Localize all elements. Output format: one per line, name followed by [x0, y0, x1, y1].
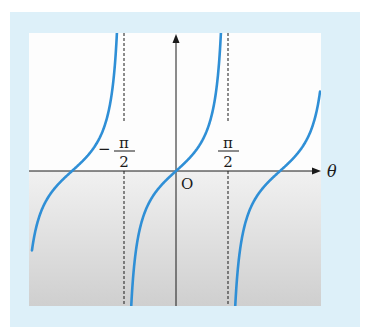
- tick-label-neg-sign: −: [98, 140, 111, 158]
- panel-lower: [29, 171, 321, 306]
- tick-label-pos-den: 2: [223, 153, 233, 171]
- tick-label-neg-num: π: [119, 134, 129, 152]
- panel-upper: [29, 33, 321, 171]
- x-axis-label: θ: [327, 162, 337, 181]
- tick-label-pos-num: π: [223, 134, 233, 152]
- origin-label: O: [181, 175, 193, 193]
- tan-chart: O θ − π 2 π 2: [0, 0, 367, 335]
- tick-label-neg-den: 2: [119, 153, 129, 171]
